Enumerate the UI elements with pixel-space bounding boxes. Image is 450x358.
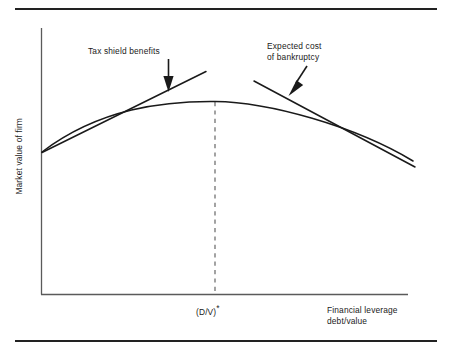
x-axis-title: Financial leveragedebt/value — [327, 305, 398, 326]
firm-value-curve — [42, 101, 413, 161]
annotation-bankruptcy-line-1: Expected cost — [267, 41, 322, 51]
right-tangent-line — [254, 81, 415, 167]
optimal-leverage-base: (D/V) — [196, 307, 216, 317]
optimal-leverage-asterisk: * — [216, 303, 219, 313]
y-axis-title: Market value of firm — [14, 111, 25, 201]
x-axis-title-line-2: debt/value — [327, 316, 367, 326]
left-tangent-line — [42, 72, 206, 153]
x-axis-title-line-1: Financial leverage — [327, 305, 398, 315]
optimal-leverage-tick-label: (D/V)* — [196, 307, 220, 318]
annotation-bankruptcy-line-2: of bankruptcy — [267, 52, 319, 62]
annotation-expected-cost-of-bankruptcy: Expected costof bankruptcy — [267, 41, 322, 62]
bankruptcy-arrow-icon — [289, 66, 308, 96]
figure-container: Tax shield benefits Expected costof bank… — [0, 0, 450, 358]
annotation-tax-shield-benefits: Tax shield benefits — [88, 46, 160, 57]
tax-shield-arrow-icon — [163, 59, 173, 92]
